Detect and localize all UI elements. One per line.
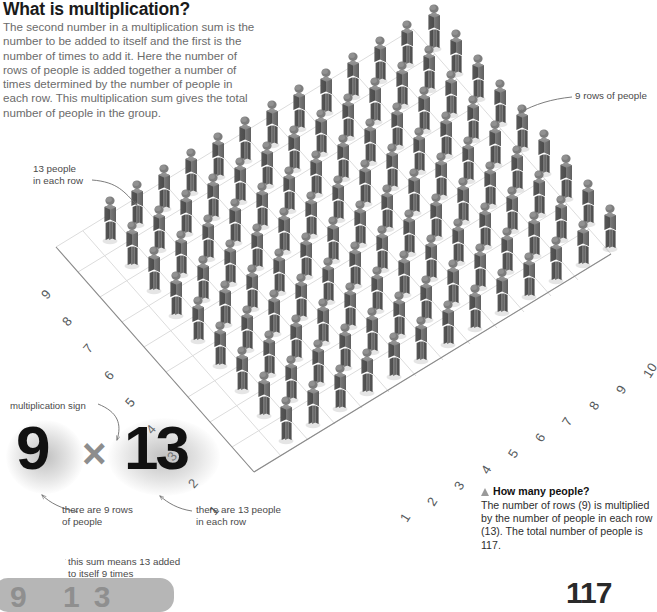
svg-text:4: 4 xyxy=(478,463,495,477)
footer-equation-chip-text: 9 13 xyxy=(10,582,180,612)
annotation-rows-of-people: 9 rows of people xyxy=(575,90,657,102)
svg-text:8: 8 xyxy=(586,399,603,413)
callout-how-many-people: How many people? The number of rows (9) … xyxy=(481,485,653,552)
callout-title: How many people? xyxy=(481,485,653,498)
callout-body: The number of rows (9) is multiplied by … xyxy=(481,499,653,552)
svg-text:10: 10 xyxy=(640,360,657,380)
svg-text:6: 6 xyxy=(101,368,117,383)
triangle-icon xyxy=(481,488,489,496)
svg-text:8: 8 xyxy=(59,314,75,329)
equation-second-factor: 13 xyxy=(124,412,187,484)
equation-display: 9 × 13 xyxy=(4,418,219,488)
annotation-people-per-row: 13 people in each row xyxy=(33,163,123,187)
footer-total-value: 117 xyxy=(566,578,656,608)
annotation-sum-meaning: this sum means 13 added to itself 9 time… xyxy=(68,556,198,580)
svg-text:7: 7 xyxy=(559,415,576,429)
svg-text:1: 1 xyxy=(397,511,414,525)
intro-paragraph: The second number in a multiplication su… xyxy=(3,20,255,120)
multiplication-sign-icon: × xyxy=(82,430,107,478)
page-title: What is multiplication? xyxy=(3,0,303,20)
svg-text:6: 6 xyxy=(532,431,549,445)
annotation-thirteen-people: there are 13 people in each row xyxy=(196,504,296,528)
svg-text:3: 3 xyxy=(451,479,468,493)
svg-text:9: 9 xyxy=(613,383,630,397)
equation-first-factor: 9 xyxy=(16,412,48,484)
svg-text:2: 2 xyxy=(424,495,441,509)
svg-text:5: 5 xyxy=(122,395,138,410)
annotation-multiplication-sign: multiplication sign xyxy=(10,400,120,412)
svg-text:7: 7 xyxy=(80,341,96,356)
annotation-nine-rows: there are 9 rows of people xyxy=(62,504,152,528)
callout-title-text: How many people? xyxy=(493,485,590,497)
svg-text:9: 9 xyxy=(38,287,54,302)
svg-text:5: 5 xyxy=(505,447,522,461)
